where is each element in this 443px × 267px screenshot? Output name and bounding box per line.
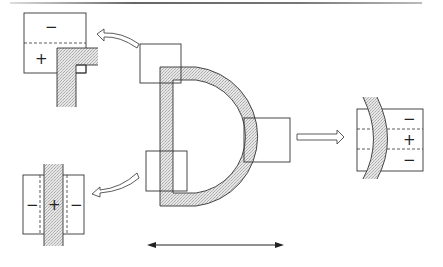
sign-plus: +: [35, 50, 48, 68]
sign-plus: +: [48, 196, 61, 214]
sign-minus-right: −: [70, 196, 83, 214]
d-track: [160, 67, 258, 206]
sign-minus-top: −: [403, 110, 416, 128]
curved-arrow-top-left-icon: [97, 29, 139, 48]
sign-minus: −: [45, 18, 58, 36]
sign-minus-left: −: [26, 196, 39, 214]
double-arrow-icon: [147, 242, 284, 248]
sign-plus: +: [403, 131, 416, 149]
top-rule: [10, 2, 422, 4]
inset-top-left: − +: [24, 13, 98, 107]
inset-bottom-left: − + −: [23, 164, 84, 246]
inset-right: − + −: [357, 97, 423, 179]
hollow-arrow-right-icon: [297, 130, 344, 144]
diagram-canvas: − + − + − − + −: [0, 0, 443, 267]
sign-minus-bottom: −: [403, 151, 416, 169]
curved-arrow-bottom-left-icon: [92, 173, 139, 197]
